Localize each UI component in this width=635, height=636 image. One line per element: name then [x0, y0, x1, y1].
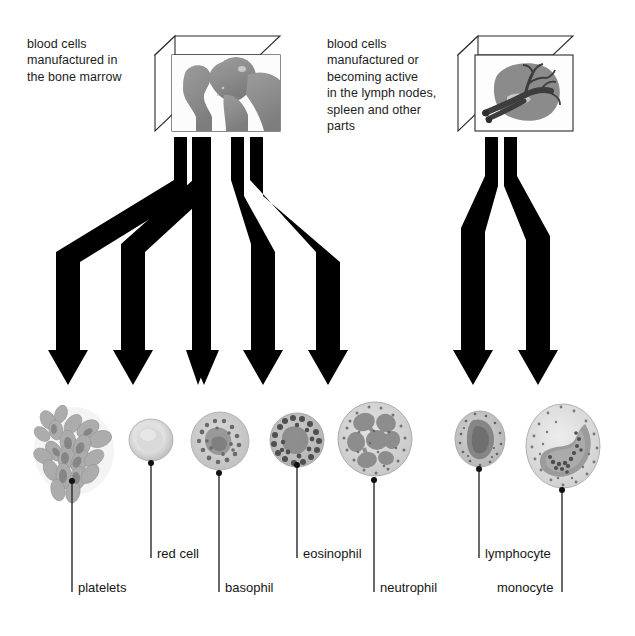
leader-lines-layer [0, 0, 635, 636]
cell-label-neutrophil: neutrophil [380, 580, 437, 595]
cell-label-red-cell: red cell [157, 546, 199, 561]
leader-monocyte [559, 487, 565, 592]
blood-cell-origin-diagram: blood cells manufactured in the bone mar… [0, 0, 635, 636]
leader-platelets [69, 478, 75, 592]
leader-red-cell [148, 460, 154, 558]
cell-label-platelets: platelets [78, 580, 126, 595]
cell-label-basophil: basophil [225, 580, 273, 595]
leader-lymphocyte [476, 466, 482, 558]
leader-neutrophil [371, 477, 377, 592]
cell-label-lymphocyte: lymphocyte [485, 546, 551, 561]
cell-label-monocyte: monocyte [497, 580, 553, 595]
leader-basophil [216, 470, 222, 592]
leader-eosinophil [294, 462, 300, 558]
cell-label-eosinophil: eosinophil [303, 546, 362, 561]
